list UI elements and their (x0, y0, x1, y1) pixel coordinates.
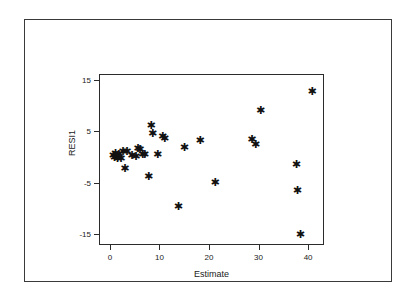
x-axis-tick-label: 0 (108, 253, 112, 262)
data-point: ✱ (174, 202, 183, 211)
data-point: ✱ (140, 150, 149, 159)
y-axis-tick-mark (94, 131, 100, 132)
data-point: ✱ (296, 230, 305, 239)
data-point: ✱ (251, 140, 260, 149)
data-point: ✱ (308, 87, 317, 96)
data-points-layer: ✱✱✱✱✱✱✱✱✱✱✱✱✱✱✱✱✱✱✱✱✱✱✱✱✱✱✱✱✱✱✱✱✱ (100, 75, 323, 244)
x-axis-tick-label: 40 (304, 253, 313, 262)
data-point: ✱ (180, 143, 189, 152)
y-axis-tick-mark (94, 80, 100, 81)
data-point: ✱ (256, 106, 265, 115)
data-point: ✱ (160, 134, 169, 143)
plot-area: ✱✱✱✱✱✱✱✱✱✱✱✱✱✱✱✱✱✱✱✱✱✱✱✱✱✱✱✱✱✱✱✱✱ 155-5-… (99, 74, 324, 245)
data-point: ✱ (148, 129, 157, 138)
y-axis-tick-mark (94, 183, 100, 184)
x-axis-tick-mark (159, 244, 160, 250)
data-point: ✱ (153, 150, 162, 159)
y-axis-tick-label: -5 (84, 178, 91, 187)
scatter-chart: ✱✱✱✱✱✱✱✱✱✱✱✱✱✱✱✱✱✱✱✱✱✱✱✱✱✱✱✱✱✱✱✱✱ 155-5-… (25, 20, 393, 283)
x-axis-tick-label: 20 (205, 253, 214, 262)
data-point: ✱ (293, 186, 302, 195)
data-point: ✱ (144, 172, 153, 181)
x-axis-title: Estimate (99, 269, 324, 279)
y-axis-tick-label: 5 (87, 127, 91, 136)
x-axis-tick-mark (259, 244, 260, 250)
x-axis-tick-mark (209, 244, 210, 250)
data-point: ✱ (210, 178, 219, 187)
data-point: ✱ (292, 160, 301, 169)
y-axis-tick-label: -15 (79, 229, 91, 238)
data-point: ✱ (120, 164, 129, 173)
y-axis-tick-label: 15 (82, 76, 91, 85)
y-axis-title: RESI1 (67, 130, 77, 156)
x-axis-tick-mark (110, 244, 111, 250)
figure-outer-frame: ✱✱✱✱✱✱✱✱✱✱✱✱✱✱✱✱✱✱✱✱✱✱✱✱✱✱✱✱✱✱✱✱✱ 155-5-… (24, 19, 392, 282)
x-axis-tick-label: 10 (155, 253, 164, 262)
x-axis-tick-mark (308, 244, 309, 250)
y-axis-tick-mark (94, 234, 100, 235)
x-axis-tick-label: 30 (254, 253, 263, 262)
data-point: ✱ (196, 136, 205, 145)
